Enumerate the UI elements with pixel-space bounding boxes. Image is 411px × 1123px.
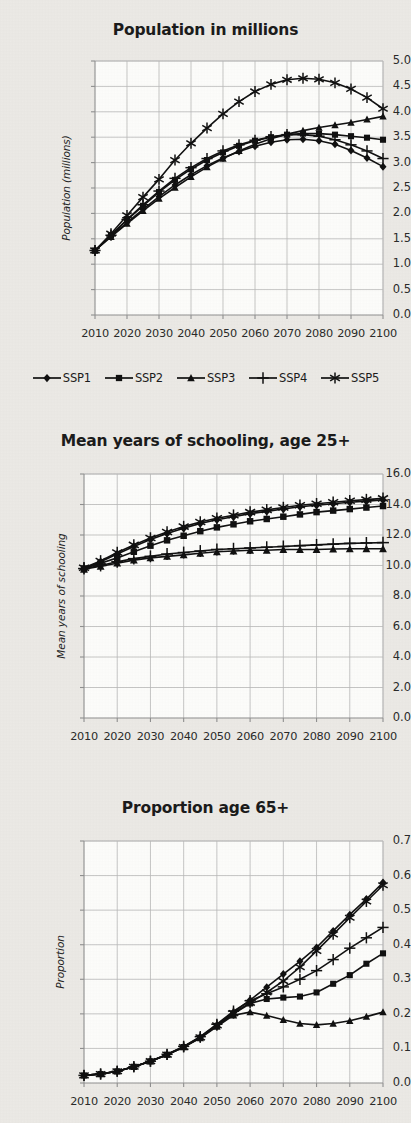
x-tick-label: 2100 bbox=[365, 730, 401, 743]
y-tick-label: 0.5 bbox=[334, 904, 411, 916]
y-tick-label: 0.0 bbox=[334, 712, 411, 724]
legend-label: SSP5 bbox=[351, 371, 379, 385]
legend-marker-glyph bbox=[116, 375, 122, 381]
x-tick-label: 2050 bbox=[205, 327, 241, 340]
x-tick-label: 2070 bbox=[269, 327, 305, 340]
x-tick-label: 2100 bbox=[365, 1095, 401, 1108]
y-tick-label: 4.0 bbox=[334, 651, 411, 663]
legend-label: SSP2 bbox=[135, 371, 163, 385]
marker-ssp2 bbox=[363, 961, 369, 967]
x-tick-label: 2060 bbox=[237, 327, 273, 340]
marker-ssp2 bbox=[164, 537, 170, 543]
legend-marker-plus-icon bbox=[248, 370, 278, 386]
y-tick-label: 0.6 bbox=[334, 870, 411, 882]
x-tick-label: 2040 bbox=[173, 327, 209, 340]
y-axis-label: Mean years of schooling bbox=[54, 533, 66, 658]
chart-panel-proportion65: Proportion age 65+ 0.00.10.20.30.40.50.6… bbox=[0, 800, 411, 1117]
legend-marker-square-icon bbox=[104, 370, 134, 386]
y-tick-label: 0.3 bbox=[334, 973, 411, 985]
x-tick-label: 2010 bbox=[77, 327, 113, 340]
y-tick-label: 0.2 bbox=[334, 1008, 411, 1020]
x-tick-label: 2020 bbox=[99, 730, 135, 743]
chart-panel-schooling: Mean years of schooling, age 25+ 0.02.04… bbox=[0, 433, 411, 750]
x-tick-label: 2080 bbox=[299, 730, 335, 743]
y-tick-label: 14.0 bbox=[334, 499, 411, 511]
marker-ssp2 bbox=[197, 528, 203, 534]
chart-legend: SSP1SSP2SSP3SSP4SSP5 bbox=[0, 370, 411, 386]
legend-label: SSP4 bbox=[279, 371, 307, 385]
legend-marker-diamond-icon bbox=[32, 370, 62, 386]
y-tick-label: 4.0 bbox=[323, 106, 411, 118]
chart-panel-population: Population in millions 0.00.51.01.52.02.… bbox=[0, 22, 411, 349]
x-tick-label: 2100 bbox=[365, 327, 401, 340]
x-tick-label: 2030 bbox=[132, 1095, 168, 1108]
x-tick-label: 2030 bbox=[132, 730, 168, 743]
x-tick-label: 2070 bbox=[265, 1095, 301, 1108]
y-tick-label: 5.0 bbox=[323, 55, 411, 67]
y-tick-label: 0.7 bbox=[334, 835, 411, 847]
x-tick-label: 2040 bbox=[166, 730, 202, 743]
x-tick-label: 2060 bbox=[232, 730, 268, 743]
x-tick-label: 2040 bbox=[166, 1095, 202, 1108]
y-tick-label: 6.0 bbox=[334, 621, 411, 633]
y-tick-label: 8.0 bbox=[334, 590, 411, 602]
y-axis-label: Proportion bbox=[54, 935, 66, 989]
marker-ssp2 bbox=[230, 521, 236, 527]
marker-ssp2 bbox=[263, 516, 269, 522]
x-tick-label: 2010 bbox=[66, 1095, 102, 1108]
chart-title-schooling: Mean years of schooling, age 25+ bbox=[0, 433, 411, 450]
chart-title-population: Population in millions bbox=[0, 22, 411, 39]
chart-title-proportion65: Proportion age 65+ bbox=[0, 800, 411, 817]
x-tick-label: 2020 bbox=[109, 327, 145, 340]
y-tick-label: 2.0 bbox=[323, 207, 411, 219]
x-tick-label: 2050 bbox=[199, 730, 235, 743]
y-tick-label: 1.0 bbox=[323, 258, 411, 270]
y-tick-label: 16.0 bbox=[334, 468, 411, 480]
chart-plot-proportion65: 0.00.10.20.30.40.50.60.7Proportion201020… bbox=[0, 817, 411, 1117]
legend-label: SSP3 bbox=[207, 371, 235, 385]
y-tick-label: 2.0 bbox=[334, 682, 411, 694]
y-tick-label: 2.5 bbox=[323, 182, 411, 194]
figure-page: Population in millions 0.00.51.01.52.02.… bbox=[0, 0, 411, 1123]
x-tick-label: 2070 bbox=[265, 730, 301, 743]
marker-ssp2 bbox=[247, 518, 253, 524]
y-tick-label: 3.0 bbox=[323, 157, 411, 169]
marker-ssp2 bbox=[214, 524, 220, 530]
legend-item-ssp3[interactable]: SSP3 bbox=[176, 370, 235, 386]
legend-marker-triangle-icon bbox=[176, 370, 206, 386]
legend-label: SSP1 bbox=[63, 371, 91, 385]
x-tick-label: 2090 bbox=[332, 1095, 368, 1108]
y-axis-label: Population (millions) bbox=[59, 135, 71, 240]
x-tick-label: 2080 bbox=[301, 327, 337, 340]
marker-ssp2 bbox=[297, 511, 303, 517]
y-tick-label: 0.4 bbox=[334, 939, 411, 951]
marker-ssp2 bbox=[380, 950, 386, 956]
x-tick-label: 2010 bbox=[66, 730, 102, 743]
x-tick-label: 2020 bbox=[99, 1095, 135, 1108]
legend-item-ssp2[interactable]: SSP2 bbox=[104, 370, 163, 386]
marker-ssp2 bbox=[280, 514, 286, 520]
legend-item-ssp5[interactable]: SSP5 bbox=[320, 370, 379, 386]
chart-plot-schooling: 0.02.04.06.08.010.012.014.016.0Mean year… bbox=[0, 450, 411, 750]
legend-marker-glyph bbox=[43, 374, 50, 382]
y-tick-label: 0.0 bbox=[334, 1077, 411, 1089]
chart-plot-population: 0.00.51.01.52.02.53.03.54.04.55.0Populat… bbox=[0, 39, 411, 349]
y-tick-label: 12.0 bbox=[334, 529, 411, 541]
marker-ssp2 bbox=[297, 994, 303, 1000]
marker-ssp2 bbox=[280, 995, 286, 1001]
y-tick-label: 0.1 bbox=[334, 1042, 411, 1054]
y-tick-label: 1.5 bbox=[323, 233, 411, 245]
legend-marker-glyph bbox=[257, 372, 269, 384]
x-tick-label: 2080 bbox=[299, 1095, 335, 1108]
x-tick-label: 2090 bbox=[333, 327, 369, 340]
x-tick-label: 2060 bbox=[232, 1095, 268, 1108]
y-tick-label: 0.5 bbox=[323, 284, 411, 296]
marker-ssp2 bbox=[314, 989, 320, 995]
legend-item-ssp4[interactable]: SSP4 bbox=[248, 370, 307, 386]
y-tick-label: 4.5 bbox=[323, 80, 411, 92]
legend-item-ssp1[interactable]: SSP1 bbox=[32, 370, 91, 386]
y-tick-label: 3.5 bbox=[323, 131, 411, 143]
marker-ssp2 bbox=[180, 533, 186, 539]
x-tick-label: 2030 bbox=[141, 327, 177, 340]
legend-marker-asterisk-icon bbox=[320, 370, 350, 386]
